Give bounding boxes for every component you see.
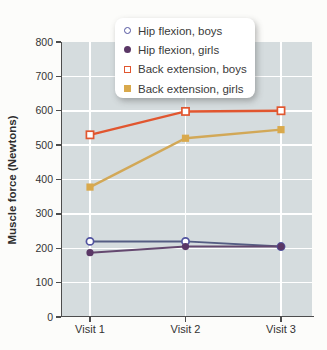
x-tick-label: Visit 2 bbox=[156, 323, 216, 336]
data-point-marker bbox=[277, 126, 284, 133]
legend-item: Back extension, boys bbox=[124, 60, 255, 79]
legend-item: Back extension, girls bbox=[124, 79, 255, 98]
y-tick bbox=[56, 41, 61, 42]
legend-label: Hip flexion, boys bbox=[138, 25, 222, 37]
y-tick-label: 600 bbox=[23, 104, 53, 117]
legend-marker-circle-icon bbox=[124, 46, 131, 53]
legend-marker-square-icon bbox=[124, 66, 131, 73]
legend-item: Hip flexion, girls bbox=[124, 40, 255, 59]
y-tick-label: 100 bbox=[23, 276, 53, 289]
data-point-marker bbox=[86, 238, 93, 245]
y-tick bbox=[56, 110, 61, 111]
muscle-force-chart: Muscle force (Newtons) Hip flexion, boys… bbox=[0, 0, 327, 350]
x-tick bbox=[185, 317, 186, 322]
x-tick bbox=[280, 317, 281, 322]
data-point-marker bbox=[182, 108, 189, 115]
data-point-marker bbox=[182, 243, 189, 250]
y-tick-label: 200 bbox=[23, 242, 53, 255]
data-point-marker bbox=[277, 243, 284, 250]
y-tick-label: 400 bbox=[23, 173, 53, 186]
y-tick bbox=[56, 179, 61, 180]
legend-label: Back extension, girls bbox=[138, 83, 243, 95]
legend-marker-circle-icon bbox=[124, 27, 131, 34]
y-axis-title: Muscle force (Newtons) bbox=[6, 80, 22, 280]
legend-label: Hip flexion, girls bbox=[138, 44, 219, 56]
y-tick-label: 700 bbox=[23, 70, 53, 83]
legend-marker-square-icon bbox=[124, 85, 131, 92]
legend-label: Back extension, boys bbox=[138, 63, 247, 75]
y-tick-label: 0 bbox=[23, 311, 53, 324]
y-tick bbox=[56, 282, 61, 283]
y-tick bbox=[56, 316, 61, 317]
y-tick-label: 300 bbox=[23, 207, 53, 220]
y-tick bbox=[56, 213, 61, 214]
legend-item: Hip flexion, boys bbox=[124, 21, 255, 40]
data-point-marker bbox=[86, 131, 93, 138]
x-tick-label: Visit 1 bbox=[60, 323, 120, 336]
data-point-marker bbox=[86, 183, 93, 190]
legend: Hip flexion, boysHip flexion, girlsBack … bbox=[115, 18, 255, 98]
y-tick bbox=[56, 144, 61, 145]
data-point-marker bbox=[277, 107, 284, 114]
x-tick bbox=[89, 317, 90, 322]
y-tick-label: 800 bbox=[23, 36, 53, 49]
data-point-marker bbox=[86, 249, 93, 256]
y-tick bbox=[56, 76, 61, 77]
data-point-marker bbox=[182, 135, 189, 142]
y-tick bbox=[56, 248, 61, 249]
x-tick-label: Visit 3 bbox=[251, 323, 311, 336]
y-tick-label: 500 bbox=[23, 139, 53, 152]
